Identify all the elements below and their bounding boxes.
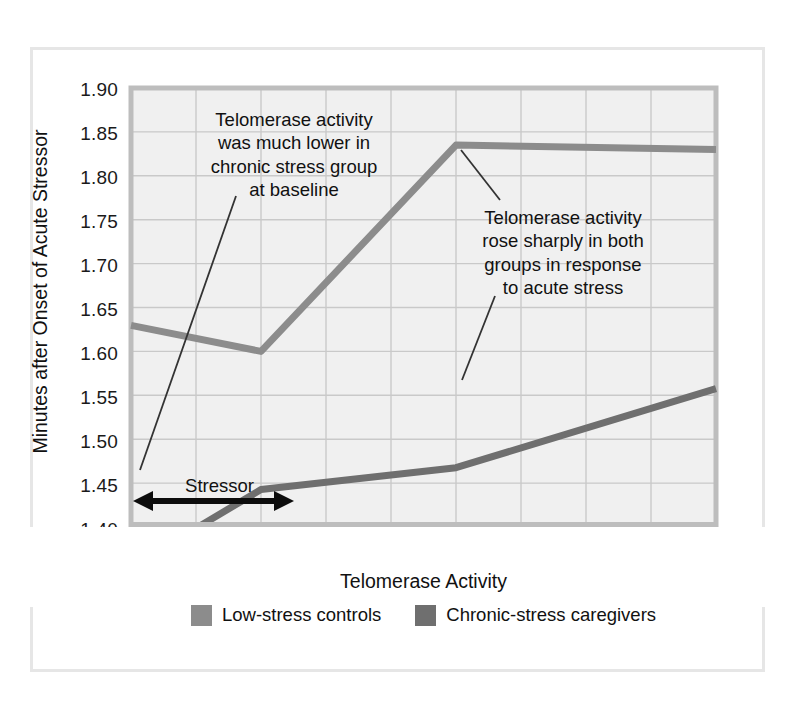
annotation-acute-line-3: groups in response [452, 253, 674, 276]
legend-label-chronic-stress-caregivers: Chronic-stress caregivers [446, 604, 656, 626]
legend-entry-chronic-stress-caregivers: Chronic-stress caregivers [415, 604, 656, 626]
y-tick-label-1_80: 1.80 [58, 167, 118, 189]
legend-swatch-low-stress-controls [191, 605, 212, 626]
y-tick-label-1_60: 1.60 [58, 343, 118, 365]
annotation-baseline-line-2: was much lower in [178, 131, 410, 154]
legend-label-low-stress-controls: Low-stress controls [222, 604, 381, 626]
x-axis-title: Telomerase Activity [131, 570, 716, 593]
annotation-acute-line-4: to acute stress [452, 276, 674, 299]
annotation-baseline-line-3: chronic stress group [178, 155, 410, 178]
y-axis-title: Minutes after Onset of Acute Stressor [29, 102, 52, 482]
legend-entry-low-stress-controls: Low-stress controls [191, 604, 381, 626]
annotation-baseline-line-4: at baseline [178, 178, 410, 201]
y-tick-label-1_85: 1.85 [58, 123, 118, 145]
y-tick-label-1_55: 1.55 [58, 387, 118, 409]
x-tick-label-30: 30 [306, 535, 346, 557]
annotation-acute-line-2: rose sharply in both [452, 229, 674, 252]
y-tick-label-1_45: 1.45 [58, 475, 118, 497]
chart-figure: Minutes after Onset of Acute Stressor 1.… [0, 0, 806, 711]
x-tick-label-90: 90 [696, 535, 736, 557]
stressor-label: Stressor [147, 475, 292, 497]
annotation-acute-stress: Telomerase activity rose sharply in both… [452, 206, 674, 299]
x-tick-label-20: 20 [241, 535, 281, 557]
y-tick-label-1_65: 1.65 [58, 299, 118, 321]
x-tick-label-80: 80 [631, 535, 671, 557]
x-tick-label-10: 10 [176, 535, 216, 557]
y-tick-label-1_40: 1.40 [58, 519, 118, 541]
annotation-baseline-line-1: Telomerase activity [178, 108, 410, 131]
y-tick-label-1_70: 1.70 [58, 255, 118, 277]
plot-frame-bottom [131, 522, 716, 527]
x-tick-label-0: 0 [111, 535, 151, 557]
leader-line-baseline [140, 196, 236, 470]
annotation-baseline: Telomerase activity was much lower in ch… [178, 108, 410, 201]
annotation-acute-line-1: Telomerase activity [452, 206, 674, 229]
x-tick-label-60: 60 [501, 535, 541, 557]
x-tick-label-40: 40 [371, 535, 411, 557]
x-tick-label-70: 70 [566, 535, 606, 557]
legend-swatch-chronic-stress-caregivers [415, 605, 436, 626]
leader-line-acute-upper [461, 150, 500, 200]
y-tick-label-1_90: 1.90 [58, 79, 118, 101]
y-tick-label-1_50: 1.50 [58, 431, 118, 453]
y-tick-label-1_75: 1.75 [58, 211, 118, 233]
leader-line-acute-lower [462, 296, 495, 380]
x-tick-label-50: 50 [436, 535, 476, 557]
chart-legend: Low-stress controls Chronic-stress careg… [131, 604, 716, 626]
